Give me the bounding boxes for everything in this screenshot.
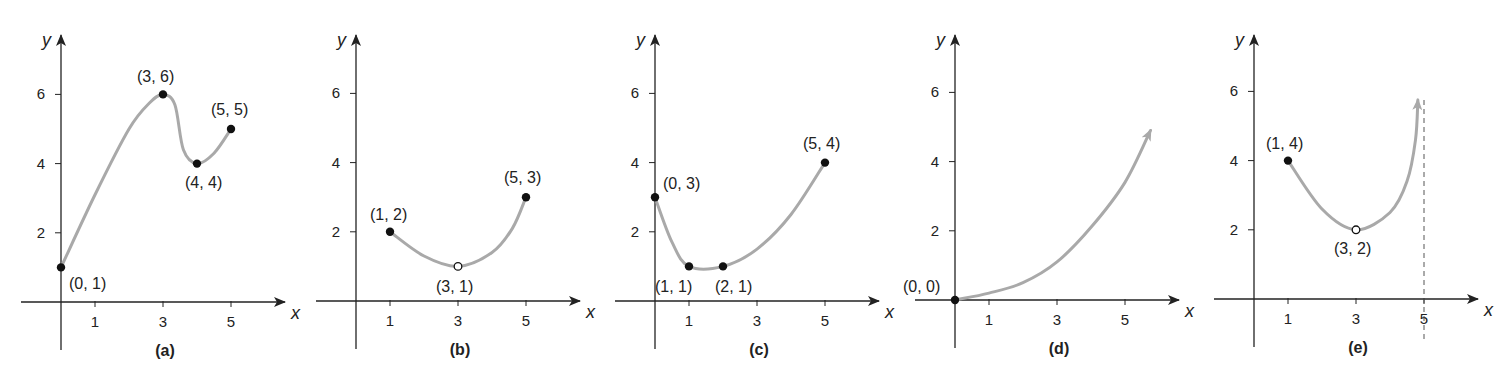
point-label: (1, 1) bbox=[655, 278, 692, 295]
x-tick-label: 3 bbox=[454, 312, 462, 329]
panel-label: (d) bbox=[1049, 340, 1069, 357]
x-axis-label: x bbox=[585, 302, 596, 322]
open-point bbox=[454, 263, 462, 271]
filled-point bbox=[57, 263, 65, 271]
point-label: (3, 6) bbox=[137, 68, 174, 85]
filled-point bbox=[719, 262, 727, 270]
point-label: (2, 1) bbox=[715, 278, 752, 295]
x-axis-label: x bbox=[1483, 300, 1494, 320]
panel-label: (b) bbox=[450, 341, 470, 358]
graph-d: xy135246(0, 0)(d) bbox=[903, 30, 1195, 357]
x-tick-label: 3 bbox=[1352, 310, 1360, 327]
y-tick-label: 2 bbox=[37, 224, 45, 241]
y-tick-label: 2 bbox=[332, 223, 340, 240]
point-label: (4, 4) bbox=[185, 174, 222, 191]
filled-point bbox=[821, 158, 829, 166]
panel-label: (a) bbox=[155, 342, 175, 359]
point-label: (0, 0) bbox=[903, 278, 940, 295]
graph-a: xy135246(0, 1)(3, 6)(4, 4)(5, 5)(a) bbox=[21, 30, 301, 359]
y-tick-label: 6 bbox=[631, 84, 639, 101]
filled-point bbox=[651, 193, 659, 201]
function-curve bbox=[955, 130, 1151, 300]
filled-point bbox=[522, 193, 530, 201]
filled-point bbox=[685, 262, 693, 270]
y-tick-label: 6 bbox=[37, 85, 45, 102]
graph-e: xy135246(1, 4)(3, 2)(e) bbox=[1214, 30, 1494, 356]
x-tick-label: 3 bbox=[753, 312, 761, 329]
y-tick-label: 2 bbox=[931, 222, 939, 239]
x-tick-label: 5 bbox=[1121, 311, 1129, 328]
x-tick-label: 3 bbox=[159, 313, 167, 330]
x-tick-label: 1 bbox=[386, 312, 394, 329]
point-label: (0, 3) bbox=[663, 175, 700, 192]
x-tick-label: 5 bbox=[227, 313, 235, 330]
graph-c: xy135246(0, 3)(1, 1)(2, 1)(5, 4)(c) bbox=[615, 30, 895, 358]
x-axis-label: x bbox=[1184, 301, 1195, 321]
y-tick-label: 6 bbox=[931, 83, 939, 100]
point-label: (1, 4) bbox=[1266, 135, 1303, 152]
y-axis-label: y bbox=[934, 30, 946, 50]
x-tick-label: 1 bbox=[985, 311, 993, 328]
graphs-canvas: xy135246(0, 1)(3, 6)(4, 4)(5, 5)(a) xy13… bbox=[0, 0, 1506, 374]
function-curve bbox=[1288, 100, 1418, 230]
point-label: (5, 4) bbox=[803, 135, 840, 152]
x-axis-label: x bbox=[290, 303, 301, 323]
y-tick-label: 2 bbox=[631, 223, 639, 240]
point-label: (5, 5) bbox=[211, 101, 248, 118]
open-point bbox=[1352, 226, 1360, 234]
point-label: (3, 1) bbox=[436, 278, 473, 295]
y-tick-label: 2 bbox=[1230, 221, 1238, 238]
x-tick-label: 1 bbox=[685, 312, 693, 329]
figure-caption-cropped: Figure bbox=[0, 0, 61, 11]
x-axis-label: x bbox=[884, 302, 895, 322]
function-curve bbox=[390, 197, 526, 266]
x-tick-label: 1 bbox=[91, 313, 99, 330]
filled-point bbox=[193, 159, 201, 167]
point-label: (3, 2) bbox=[1334, 240, 1371, 257]
y-axis-label: y bbox=[40, 30, 52, 50]
y-tick-label: 6 bbox=[1230, 82, 1238, 99]
y-tick-label: 4 bbox=[37, 155, 45, 172]
filled-point bbox=[951, 296, 959, 304]
filled-point bbox=[227, 125, 235, 133]
x-tick-label: 5 bbox=[821, 312, 829, 329]
y-tick-label: 4 bbox=[1230, 152, 1238, 169]
panel-label: (c) bbox=[749, 341, 769, 358]
point-label: (0, 1) bbox=[69, 275, 106, 292]
x-tick-label: 1 bbox=[1284, 310, 1292, 327]
y-tick-label: 4 bbox=[332, 154, 340, 171]
figure: Figure xy135246(0, 1)(3, 6)(4, 4)(5, 5)(… bbox=[0, 0, 1506, 374]
y-axis-label: y bbox=[634, 30, 646, 50]
y-tick-label: 4 bbox=[931, 153, 939, 170]
x-tick-label: 3 bbox=[1053, 311, 1061, 328]
y-tick-label: 6 bbox=[332, 84, 340, 101]
point-label: (1, 2) bbox=[370, 206, 407, 223]
filled-point bbox=[159, 90, 167, 98]
y-tick-label: 4 bbox=[631, 154, 639, 171]
x-tick-label: 5 bbox=[522, 312, 530, 329]
y-axis-label: y bbox=[335, 30, 347, 50]
filled-point bbox=[386, 228, 394, 236]
filled-point bbox=[1284, 156, 1292, 164]
point-label: (5, 3) bbox=[504, 169, 541, 186]
graph-b: xy135246(1, 2)(3, 1)(5, 3)(b) bbox=[316, 30, 596, 358]
y-axis-label: y bbox=[1233, 30, 1245, 50]
panel-label: (e) bbox=[1348, 339, 1368, 356]
